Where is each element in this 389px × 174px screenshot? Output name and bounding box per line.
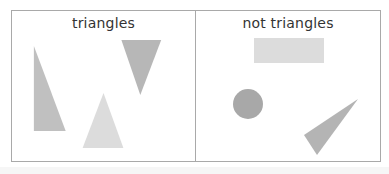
shapes-not-triangles — [196, 11, 380, 161]
sorting-board: triangles not triangles — [11, 10, 381, 162]
panel-not-triangles: not triangles — [196, 11, 380, 161]
bottom-strip — [0, 167, 389, 174]
rectangle-shape — [254, 38, 324, 63]
circle-shape — [233, 89, 263, 119]
panel-triangles: triangles — [12, 11, 196, 161]
shapes-triangles — [12, 11, 195, 161]
tall-right-triangle-shape — [34, 46, 66, 131]
upright-triangle-shape — [83, 93, 124, 148]
inverted-triangle-shape — [121, 40, 161, 95]
skinny-triangle-shape — [304, 99, 358, 155]
